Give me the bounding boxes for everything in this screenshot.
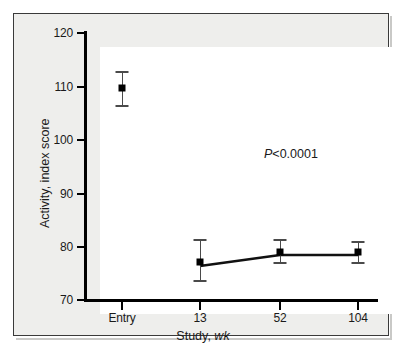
x-axis-title-main: Study, <box>176 329 211 343</box>
x-tick-label-2: 52 <box>274 311 287 325</box>
error-bar-cap-upper-entry <box>116 71 129 73</box>
y-axis-line <box>84 31 87 302</box>
data-point-entry <box>119 85 126 92</box>
y-tick-5 <box>77 299 84 301</box>
x-tick-3 <box>357 302 359 310</box>
error-bar-cap-lower-wk104 <box>352 262 365 264</box>
p-value-annotation: P<0.0001 <box>264 147 318 161</box>
y-tick-0 <box>77 32 84 34</box>
y-tick-4 <box>77 246 84 248</box>
error-bar-cap-lower-wk52 <box>274 262 287 264</box>
data-point-wk13 <box>197 259 204 266</box>
y-tick-label-3: 90 <box>60 187 73 201</box>
y-tick-2 <box>77 139 84 141</box>
p-value-number: <0.0001 <box>272 147 318 161</box>
y-tick-3 <box>77 193 84 195</box>
y-tick-label-4: 80 <box>60 240 73 254</box>
y-tick-label-1: 110 <box>54 80 73 94</box>
y-tick-1 <box>77 86 84 88</box>
x-tick-label-1: 13 <box>194 311 207 325</box>
error-bar-cap-upper-wk104 <box>352 241 365 243</box>
figure-container: 120 110 100 90 80 70 Entry 13 52 104 P<0… <box>0 0 406 353</box>
x-tick-label-3: 104 <box>348 311 367 325</box>
plot-area <box>100 47 392 314</box>
data-point-wk52 <box>277 249 284 256</box>
x-axis-title: Study, wk <box>0 329 406 343</box>
x-tick-0 <box>121 302 123 310</box>
figure-panel <box>13 13 389 336</box>
y-axis-title: Activity, index score <box>38 118 52 228</box>
x-tick-2 <box>279 302 281 310</box>
error-bar-cap-lower-wk13 <box>194 280 207 282</box>
data-point-wk104 <box>355 249 362 256</box>
y-tick-label-5: 70 <box>60 293 73 307</box>
error-bar-cap-upper-wk13 <box>194 239 207 241</box>
y-tick-label-2: 100 <box>54 133 73 147</box>
y-tick-label-0: 120 <box>54 26 73 40</box>
x-tick-1 <box>199 302 201 310</box>
error-bar-cap-upper-wk52 <box>274 239 287 241</box>
error-bar-cap-lower-entry <box>116 105 129 107</box>
x-axis-line <box>84 299 378 302</box>
x-axis-title-unit: wk <box>214 329 229 343</box>
x-tick-label-0: Entry <box>108 311 135 325</box>
